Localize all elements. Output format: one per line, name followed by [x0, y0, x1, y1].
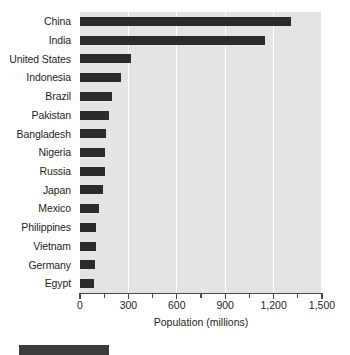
y-axis-tick-label: Japan	[0, 181, 76, 200]
y-axis-tick-label: India	[0, 31, 76, 50]
bar-row	[80, 31, 322, 50]
x-axis-minor-tick	[297, 294, 298, 298]
y-axis-tick-label: China	[0, 12, 76, 31]
bar	[80, 167, 105, 176]
bar-row	[80, 87, 322, 106]
x-axis-tick-label-group: 03006009001,2001,500	[80, 300, 322, 314]
bar	[80, 36, 265, 45]
x-axis-tick-label: 1,500	[309, 300, 335, 311]
x-axis-tick-label: 900	[216, 300, 234, 311]
y-axis-tick-label: Philippines	[0, 218, 76, 237]
bar	[80, 204, 99, 213]
bar	[80, 111, 109, 120]
y-axis-label-group: China India United States Indonesia Braz…	[0, 12, 76, 293]
bar-row	[80, 181, 322, 200]
bar	[80, 185, 103, 194]
y-axis-tick-label: Brazil	[0, 87, 76, 106]
y-axis-tick-label: Nigeria	[0, 143, 76, 162]
bar-row	[80, 49, 322, 68]
y-axis-tick-label: Russia	[0, 162, 76, 181]
x-axis-tick-label: 1,200	[260, 300, 286, 311]
bar	[80, 17, 291, 26]
bar-row	[80, 256, 322, 275]
bar-row	[80, 218, 322, 237]
bar	[80, 242, 96, 251]
y-axis-tick-label: Vietnam	[0, 237, 76, 256]
y-axis-tick-label: Egypt	[0, 274, 76, 293]
bar	[80, 129, 106, 138]
bar	[80, 260, 95, 269]
x-axis-minor-tick	[249, 294, 250, 298]
bar-row	[80, 124, 322, 143]
bar	[80, 223, 96, 232]
y-axis-tick-label: Pakistan	[0, 106, 76, 125]
bar-row	[80, 143, 322, 162]
y-axis-tick-label: Indonesia	[0, 68, 76, 87]
x-axis-tick-label: 300	[120, 300, 138, 311]
bar	[80, 73, 121, 82]
bar-row	[80, 199, 322, 218]
y-axis-tick-label: United States	[0, 49, 76, 68]
bar-row	[80, 106, 322, 125]
x-axis-title: Population (millions)	[80, 317, 322, 328]
y-axis-tick-label: Germany	[0, 256, 76, 275]
x-axis-minor-tick	[104, 294, 105, 298]
figure-caption-strip	[19, 345, 109, 355]
bar	[80, 148, 105, 157]
bar-series	[80, 12, 322, 293]
bar-row	[80, 274, 322, 293]
bar-row	[80, 162, 322, 181]
bar	[80, 92, 112, 101]
plot-area	[80, 12, 322, 293]
x-axis-minor-tick	[200, 294, 201, 298]
x-axis-minor-tick	[152, 294, 153, 298]
y-axis-tick-label: Mexico	[0, 199, 76, 218]
x-axis-tick-label: 600	[168, 300, 186, 311]
bar	[80, 279, 94, 288]
bar-row	[80, 12, 322, 31]
bar-row	[80, 237, 322, 256]
x-axis-tick-label: 0	[77, 300, 83, 311]
y-axis-tick-label: Bangladesh	[0, 124, 76, 143]
population-bar-chart: China India United States Indonesia Braz…	[0, 0, 350, 355]
bar	[80, 54, 131, 63]
bar-row	[80, 68, 322, 87]
